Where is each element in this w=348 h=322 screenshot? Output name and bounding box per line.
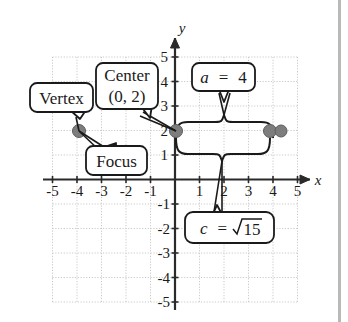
point-right-vertex (275, 125, 287, 137)
y-tick-label: -5 (158, 294, 171, 310)
c-brace (176, 138, 270, 161)
x-tick-label: 1 (196, 183, 204, 199)
x-axis-tick-labels: -5 -4 -3 -2 -1 1 2 3 4 5 (46, 183, 301, 199)
c-symbol: c (200, 219, 208, 238)
y-tick-label: -4 (158, 270, 171, 286)
y-axis-arrow (171, 38, 180, 48)
focus-callout-label: Focus (96, 152, 137, 171)
y-tick-label: 3 (161, 98, 169, 114)
a-equals: = (219, 68, 229, 87)
y-axis-label: y (177, 20, 186, 36)
axes (43, 38, 310, 310)
x-axis-label: x (314, 172, 322, 188)
figure-container: -5 -4 -3 -2 -1 1 2 3 4 5 5 4 3 2 1 -1 -2… (0, 0, 348, 322)
x-tick-label: -1 (144, 183, 157, 199)
c-equals: = (218, 219, 228, 238)
x-axis-arrow (300, 175, 310, 184)
y-tick-label: -1 (158, 196, 171, 212)
x-tick-label: -2 (120, 183, 133, 199)
center-callout-coordinates: (0, 2) (109, 87, 146, 106)
coordinate-plane-svg: -5 -4 -3 -2 -1 1 2 3 4 5 5 4 3 2 1 -1 -2… (0, 0, 348, 322)
x-tick-label: 3 (245, 183, 253, 199)
x-tick-label: -4 (71, 183, 84, 199)
callout-focus[interactable]: Focus (86, 143, 147, 175)
a-callout-expression: a = 4 (200, 68, 247, 87)
c-radicand: 15 (244, 220, 261, 239)
y-tick-label: 5 (161, 49, 169, 65)
callout-a-value[interactable]: a = 4 (192, 63, 255, 102)
x-tick-label: 4 (269, 183, 277, 199)
callout-c-value[interactable]: c = 15 (185, 205, 274, 243)
y-tick-label: -3 (158, 245, 171, 261)
c-callout-box (185, 212, 274, 243)
y-tick-label: 4 (161, 74, 169, 90)
x-tick-label: 5 (294, 183, 302, 199)
center-callout-label: Center (104, 66, 150, 85)
x-tick-label: -5 (46, 183, 59, 199)
y-tick-label: 1 (161, 147, 169, 163)
y-tick-label: -2 (158, 221, 171, 237)
a-symbol: a (200, 68, 209, 87)
page-edge-rule (338, 0, 341, 322)
vertex-callout-label: Vertex (39, 89, 84, 108)
x-tick-label: -3 (95, 183, 108, 199)
focus-leader-a (79, 131, 104, 147)
a-brace (176, 115, 273, 138)
a-value: 4 (238, 68, 247, 87)
callout-vertex[interactable]: Vertex (30, 83, 93, 119)
callout-center[interactable]: Center (0, 2) (96, 63, 158, 118)
